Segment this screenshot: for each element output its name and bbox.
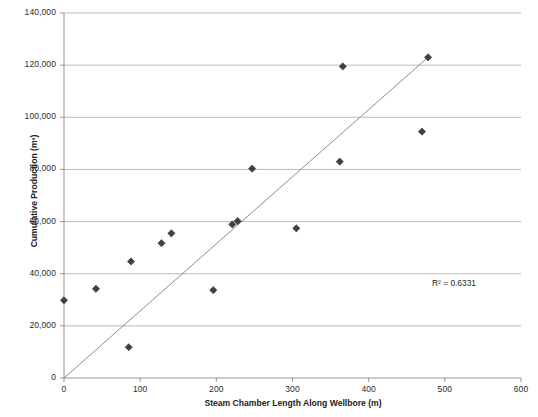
x-tick-label: 0 — [44, 384, 84, 394]
data-point-marker — [336, 158, 343, 165]
data-point-marker — [60, 297, 67, 304]
data-points — [60, 54, 431, 351]
data-point-marker — [418, 128, 425, 135]
trendline-path — [64, 57, 428, 378]
x-tick-label: 600 — [501, 384, 538, 394]
data-point-marker — [210, 287, 217, 294]
y-axis-tick-marks — [60, 13, 64, 378]
data-point-marker — [158, 240, 165, 247]
x-tick-label: 100 — [120, 384, 160, 394]
x-tick-label: 300 — [273, 384, 313, 394]
r-squared-text: R² = 0.6331 — [432, 278, 476, 288]
y-tick-label: 120,000 — [0, 59, 56, 69]
trendline — [64, 57, 428, 378]
data-point-marker — [339, 63, 346, 70]
y-tick-label: 100,000 — [0, 111, 56, 121]
data-point-marker — [127, 258, 134, 265]
r-squared-annotation: R² = 0.6331 — [432, 278, 476, 288]
data-point-marker — [249, 165, 256, 172]
y-tick-label: 20,000 — [0, 320, 56, 330]
y-tick-label: 0 — [0, 372, 56, 382]
x-axis-tick-marks — [64, 378, 521, 382]
x-tick-label: 400 — [349, 384, 389, 394]
x-tick-label: 200 — [196, 384, 236, 394]
data-point-marker — [92, 285, 99, 292]
x-axis-title: Steam Chamber Length Along Wellbore (m) — [64, 398, 522, 408]
y-tick-label: 60,000 — [0, 216, 56, 226]
scatter-chart: 020,00040,00060,00080,000100,000120,0001… — [0, 0, 538, 417]
plot-area — [0, 0, 538, 417]
y-tick-label: 80,000 — [0, 163, 56, 173]
data-point-marker — [293, 225, 300, 232]
x-tick-label: 500 — [425, 384, 465, 394]
data-point-marker — [125, 344, 132, 351]
y-axis-title: Cumulative Production (m³) — [29, 111, 39, 271]
y-tick-label: 140,000 — [0, 7, 56, 17]
axis-lines — [64, 13, 521, 378]
y-tick-label: 40,000 — [0, 268, 56, 278]
data-point-marker — [168, 230, 175, 237]
